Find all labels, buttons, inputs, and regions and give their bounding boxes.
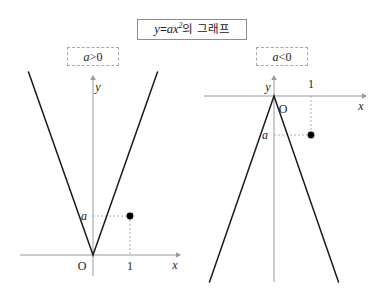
figure-title-box: y=ax2의 그래프 [137,19,247,40]
x-tick-label-1-left: 1 [127,259,133,273]
condition-label-a-negative: a<0 [273,51,292,63]
x-axis-label-right: x [357,99,364,113]
x-axis-arrow-left [176,252,181,258]
x-axis-arrow-right [362,93,367,99]
x-tick-label-1-right: 1 [308,77,314,91]
data-point-1-a-left [127,213,134,220]
condition-label-a-positive: a>0 [84,51,103,63]
data-point-1-a-right [308,132,315,139]
figure-title: y=ax2의 그래프 [154,23,229,36]
condition-chip-a-positive: a>0 [67,47,119,66]
condition-chip-a-negative: a<0 [256,47,308,66]
figure-title-suffix: 의 그래프 [182,23,229,35]
origin-label-right: O [279,102,288,116]
y-axis-label-right: y [264,80,271,94]
chart-panel-a-positive: y x O 1 a [18,68,186,284]
y-value-label-a-right: a [262,128,268,142]
chart-svg-a-positive: y x O 1 a [18,68,186,284]
chart-svg-a-negative: y x O 1 a [202,68,374,284]
y-axis-label-left: y [94,80,101,94]
y-axis-arrow-right [271,75,277,80]
chart-panel-a-negative: y x O 1 a [202,68,374,284]
y-value-label-a-left: a [81,209,87,223]
condition-rel-left: >0 [90,50,103,64]
graph-figure: y=ax2의 그래프 a>0 a<0 y x O 1 [0,0,385,300]
x-axis-label-left: x [171,258,178,272]
origin-label-left: O [78,259,87,273]
condition-rel-right: <0 [279,50,292,64]
